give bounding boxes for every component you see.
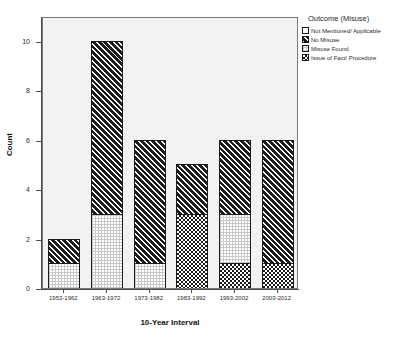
x-axis-line [41, 289, 299, 290]
bar-segment [91, 214, 123, 288]
x-tick-mark [63, 289, 64, 293]
y-tick-mark [36, 91, 41, 92]
legend-swatch-icon [302, 45, 309, 52]
y-axis-line [41, 17, 42, 290]
plot-area [42, 17, 298, 289]
bar-segment [176, 214, 208, 288]
legend-swatch-icon [302, 54, 309, 61]
legend-item-label: No Misuse [311, 36, 339, 44]
y-tick-label: 2 [2, 236, 30, 243]
legend-title: Outcome (Misuse) [308, 14, 401, 23]
legend-item-label: Misuse Found [311, 45, 349, 53]
y-tick-label: 8 [2, 87, 30, 94]
y-tick-mark [36, 190, 41, 191]
y-tick-mark [36, 141, 41, 142]
x-axis-title: 10-Year Interval [42, 318, 298, 327]
bar-segment [48, 239, 80, 265]
x-tick-mark [191, 289, 192, 293]
bar-stack [134, 18, 166, 288]
stacked-bar-chart: 0246810 1953-19621963-19721973-19821983-… [0, 0, 401, 343]
bars-layer [43, 18, 297, 288]
bar-stack [262, 18, 294, 288]
legend-swatch-icon [302, 27, 309, 34]
bar-stack [176, 18, 208, 288]
legend-item: Issue of Fact/ Procedure [302, 54, 401, 62]
bar-segment [176, 164, 208, 214]
x-tick-mark [277, 289, 278, 293]
legend-item: Not Mentioned/ Applicable [302, 27, 401, 35]
x-tick-mark [106, 289, 107, 293]
bar-segment [219, 263, 251, 288]
bar-stack [48, 18, 80, 288]
x-tick-mark [234, 289, 235, 293]
y-tick-label: 10 [2, 38, 30, 45]
y-tick-mark [36, 240, 41, 241]
x-tick-label: 2003-2012 [255, 295, 298, 302]
bar-segment [134, 263, 166, 288]
x-tick-label: 1983-1992 [170, 295, 213, 302]
legend-swatch-icon [302, 36, 309, 43]
legend-item: No Misuse [302, 36, 401, 44]
x-tick-label: 1953-1962 [42, 295, 85, 302]
bar-segment [219, 214, 251, 264]
bar-segment [262, 140, 294, 265]
x-tick-label: 1963-1972 [85, 295, 128, 302]
x-tick-mark [149, 289, 150, 293]
bar-segment [91, 41, 123, 215]
y-tick-mark [36, 289, 41, 290]
x-tick-label: 1973-1982 [127, 295, 170, 302]
x-tick-label: 1993-2002 [213, 295, 256, 302]
legend: Outcome (Misuse) Not Mentioned/ Applicab… [302, 14, 401, 63]
bar-segment [134, 140, 166, 265]
legend-item-label: Not Mentioned/ Applicable [311, 27, 381, 35]
legend-item: Misuse Found [302, 45, 401, 53]
bar-stack [219, 18, 251, 288]
legend-items: Not Mentioned/ ApplicableNo MisuseMisuse… [302, 27, 401, 62]
bar-segment [262, 263, 294, 288]
y-axis-title: Count [5, 110, 14, 180]
bar-segment [48, 263, 80, 288]
y-tick-label: 0 [2, 285, 30, 292]
y-tick-label: 4 [2, 186, 30, 193]
y-tick-mark [36, 42, 41, 43]
bar-stack [91, 18, 123, 288]
legend-item-label: Issue of Fact/ Procedure [311, 54, 376, 62]
bar-segment [219, 140, 251, 215]
